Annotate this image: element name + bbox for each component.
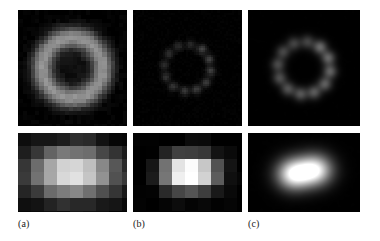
- heatmap-canvas-a-bottom: [18, 133, 127, 212]
- heatmap-canvas-a-top: [18, 10, 127, 126]
- image-panel-c-top: [248, 10, 360, 126]
- image-panel-b-bottom: [133, 133, 242, 212]
- figure-root: (a) (b) (c): [0, 0, 380, 241]
- panel-label-b: (b): [133, 218, 145, 230]
- heatmap-canvas-b-top: [133, 10, 242, 126]
- panel-label-c: (c): [248, 218, 259, 230]
- image-panel-b-top: [133, 10, 242, 126]
- heatmap-canvas-b-bottom: [133, 133, 242, 212]
- image-panel-a-bottom: [18, 133, 127, 212]
- heatmap-canvas-c-bottom: [248, 133, 360, 212]
- panel-label-a: (a): [18, 218, 29, 230]
- heatmap-canvas-c-top: [248, 10, 360, 126]
- image-panel-c-bottom: [248, 133, 360, 212]
- image-panel-a-top: [18, 10, 127, 126]
